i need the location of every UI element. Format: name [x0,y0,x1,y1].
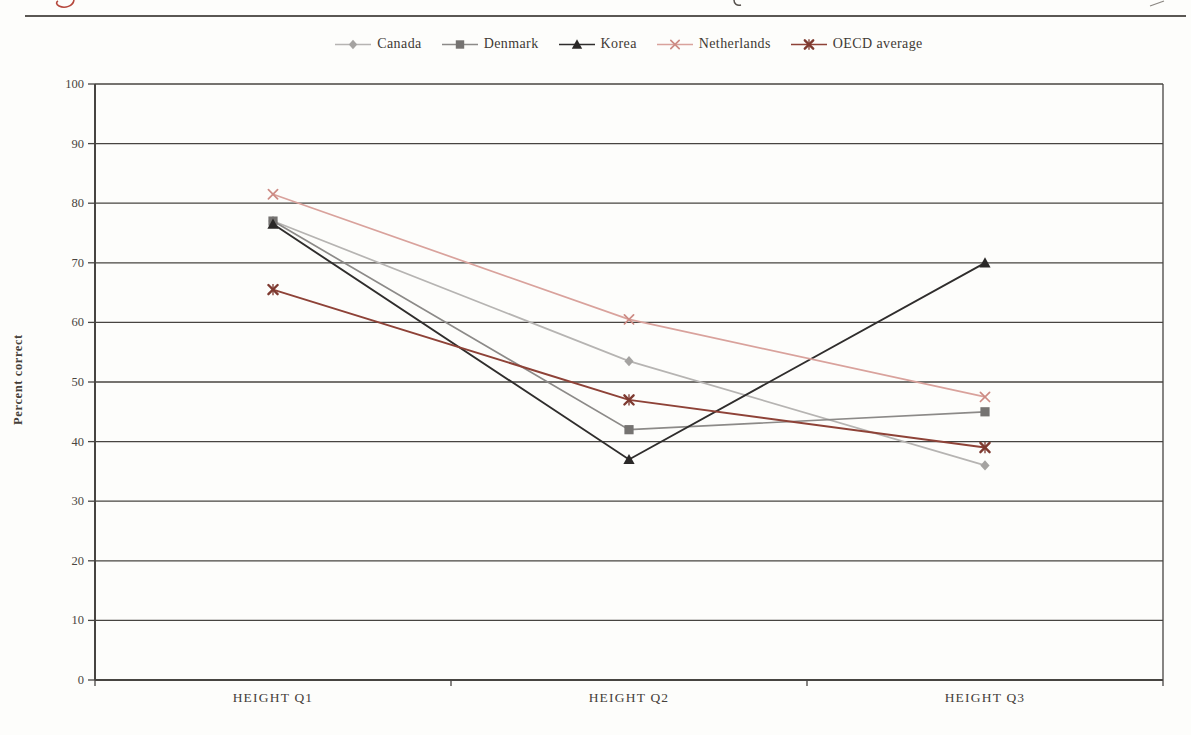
series-line-oecd-average [273,290,985,448]
series-markers-netherlands [268,190,989,402]
y-tick-label: 70 [72,256,85,270]
square-marker [624,425,633,434]
y-tick-label: 20 [72,554,85,568]
y-tick-label: 80 [72,196,85,210]
line-chart: 0102030405060708090100HEIGHT Q1HEIGHT Q2… [0,0,1191,735]
diamond-marker [980,460,989,470]
y-tick-label: 90 [72,137,85,151]
y-tick-label: 30 [72,494,85,508]
y-tick-label: 50 [72,375,85,389]
diamond-marker [624,356,633,366]
x-tick-label: HEIGHT Q2 [589,690,670,705]
square-marker [980,407,989,416]
y-tick-label: 40 [72,435,85,449]
y-tick-label: 60 [72,315,85,329]
y-tick-label: 10 [72,613,85,627]
y-tick-label: 0 [78,673,84,687]
x-tick-label: HEIGHT Q3 [945,690,1026,705]
series-line-korea [273,224,985,459]
triangle-marker [623,454,634,464]
x-tick-label: HEIGHT Q1 [233,690,314,705]
scanned-page: CanadaDenmarkKoreaNetherlandsOECD averag… [0,0,1191,735]
y-tick-label: 100 [65,77,84,91]
